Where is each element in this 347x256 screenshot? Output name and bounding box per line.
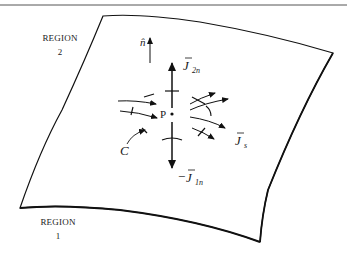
j1n-minus: −: [178, 169, 185, 184]
contour-dash-right-mid: [206, 106, 211, 116]
surface-right-edge: [260, 53, 333, 242]
js-label: J: [235, 133, 242, 148]
js-subscript: s: [244, 141, 247, 150]
j1n-label: J: [186, 170, 193, 185]
region-1-label: REGION: [40, 217, 75, 227]
point-p-label: P: [160, 108, 166, 120]
contour-c-pointer: [127, 130, 145, 144]
contour-dash-left-mid: [131, 107, 133, 115]
contour-dash-right-top: [192, 97, 205, 104]
j2n-label: J: [183, 58, 190, 73]
j2n-subscript: 2n: [192, 66, 200, 75]
js-left-line-2: [120, 111, 157, 118]
region-1-number: 1: [56, 231, 61, 241]
js-right-line-3: [190, 117, 225, 128]
js-left-line-1: [118, 101, 156, 104]
boundary-surface-diagram: REGION 2 REGION 1 n̂ P C J 2n − J 1n J s: [0, 0, 347, 256]
normal-label: n̂: [140, 36, 146, 48]
region-2-label: REGION: [42, 33, 77, 43]
contour-c-label: C: [120, 143, 129, 158]
contour-dash-left-top: [144, 94, 154, 97]
contour-dash-right-bottom: [198, 128, 205, 136]
j1n-subscript: 1n: [195, 178, 203, 187]
interface-surface-outline: [20, 15, 333, 242]
point-p-dot: [170, 112, 173, 115]
region-2-number: 2: [58, 47, 63, 57]
